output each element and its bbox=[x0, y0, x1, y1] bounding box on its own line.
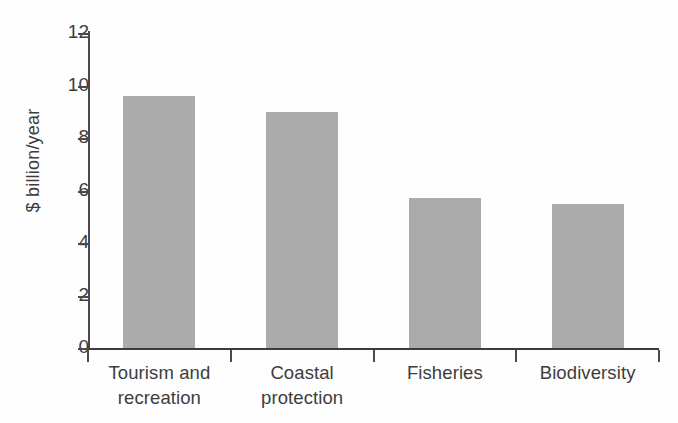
category-label-line: Fisheries bbox=[374, 360, 517, 385]
y-tick-label: 12 bbox=[43, 21, 89, 43]
category-label-line: Tourism and bbox=[88, 360, 231, 385]
bar bbox=[552, 204, 624, 348]
y-axis-title: $ billion/year bbox=[23, 66, 44, 256]
y-tick-label: 10 bbox=[43, 74, 89, 96]
y-tick-mark bbox=[78, 138, 89, 140]
y-tick-mark bbox=[78, 33, 89, 35]
category-label: Biodiversity bbox=[516, 360, 659, 385]
category-label-line: Coastal bbox=[231, 360, 374, 385]
category-label-line: Biodiversity bbox=[516, 360, 659, 385]
y-tick-mark bbox=[78, 243, 89, 245]
bar bbox=[409, 198, 481, 348]
y-tick-mark bbox=[78, 296, 89, 298]
y-tick-mark bbox=[78, 191, 89, 193]
y-tick-label: 8 bbox=[43, 126, 89, 148]
bar bbox=[123, 96, 195, 348]
y-tick-label: 4 bbox=[43, 231, 89, 253]
category-label: Coastalprotection bbox=[231, 360, 374, 410]
category-label-line: protection bbox=[231, 385, 374, 410]
bar bbox=[266, 112, 338, 348]
y-tick-label: 0 bbox=[43, 336, 89, 358]
category-label: Tourism andrecreation bbox=[88, 360, 231, 410]
category-label-line: recreation bbox=[88, 385, 231, 410]
y-tick-mark bbox=[78, 86, 89, 88]
y-tick-label: 6 bbox=[43, 179, 89, 201]
bar-chart-figure: $ billion/year 024681012 Tourism andrecr… bbox=[0, 0, 678, 423]
y-tick-label: 2 bbox=[43, 284, 89, 306]
category-label: Fisheries bbox=[374, 360, 517, 385]
